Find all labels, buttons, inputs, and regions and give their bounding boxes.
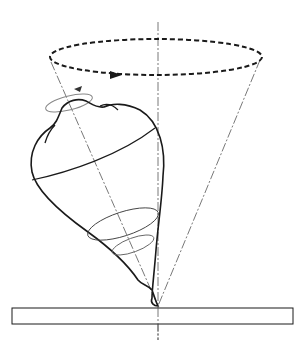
spinning-top-diagram <box>0 0 306 354</box>
top-ring-large <box>84 201 162 247</box>
ground-plate <box>12 308 293 324</box>
precession-arrow-icon <box>110 71 122 79</box>
precession-orbit <box>50 39 262 75</box>
cone-left-side <box>51 62 158 306</box>
top-ring-small <box>110 231 156 259</box>
spin-ellipse <box>44 90 94 115</box>
top-equator <box>32 128 155 180</box>
spin-arrow-icon <box>74 86 82 92</box>
cone-right-side <box>158 60 260 306</box>
